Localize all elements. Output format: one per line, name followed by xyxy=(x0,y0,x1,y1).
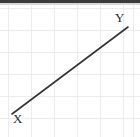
xy-line-segment xyxy=(12,27,128,114)
graph-screenshot: Y X xyxy=(0,0,140,137)
endpoint-label-y: Y xyxy=(115,11,124,24)
plot-area: Y X xyxy=(0,5,140,137)
endpoint-label-x: X xyxy=(13,112,22,125)
